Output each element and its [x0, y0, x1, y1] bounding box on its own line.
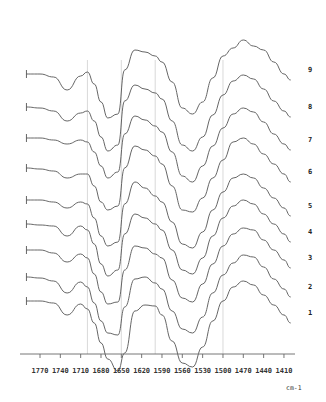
spectrum-curve-7	[26, 108, 290, 182]
ir-spectra-chart: 123456789 177017401710168016501620159015…	[0, 0, 326, 402]
spectrum-curve-8	[26, 75, 290, 151]
curve-label-7: 7	[308, 136, 312, 144]
curve-label-9: 9	[308, 66, 312, 74]
x-tick-label: 1710	[72, 367, 89, 375]
x-tick-label: 1680	[93, 367, 110, 375]
curve-label-1: 1	[308, 309, 312, 317]
x-tick-label: 1500	[215, 367, 232, 375]
x-tick-label: 1560	[174, 367, 191, 375]
curve-label-2: 2	[308, 283, 312, 291]
curve-label-3: 3	[308, 254, 312, 262]
curve-label-8: 8	[308, 103, 312, 111]
x-tick-label: 1770	[32, 367, 49, 375]
spectrum-curve-1	[26, 281, 290, 371]
x-tick-label: 1470	[235, 367, 252, 375]
curve-label-4: 4	[308, 228, 312, 236]
curve-label-5: 5	[308, 202, 312, 210]
x-tick-label: 1590	[154, 367, 171, 375]
x-axis-unit-label: cm-1	[286, 384, 302, 392]
x-tick-label: 1440	[255, 367, 272, 375]
curve-label-6: 6	[308, 168, 312, 176]
spectra-curves	[26, 40, 290, 371]
spectrum-curve-5	[26, 174, 290, 248]
x-tick-label: 1530	[194, 367, 211, 375]
x-tick-label: 1650	[113, 367, 130, 375]
spectrum-curve-4	[26, 200, 290, 276]
x-tick-label: 1410	[276, 367, 293, 375]
spectrum-curve-2	[26, 255, 290, 335]
x-tick-label: 1620	[133, 367, 150, 375]
x-tick-label: 1740	[52, 367, 69, 375]
spectrum-curve-6	[26, 138, 290, 212]
curve-number-labels: 123456789	[308, 66, 312, 317]
x-axis: 1770174017101680165016201590156015301500…	[20, 354, 295, 375]
reference-lines	[87, 60, 223, 354]
